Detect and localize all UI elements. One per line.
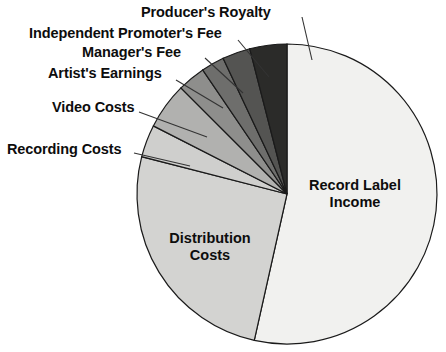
label-independent-promoters-fee: Independent Promoter's Fee	[29, 26, 222, 41]
label-record-label-income-line1: Record Label	[309, 177, 401, 193]
pie-chart-svg	[0, 0, 446, 352]
label-record-label-income: Record Label Income	[300, 177, 410, 211]
pie-chart: Producer's Royalty Independent Promoter'…	[0, 0, 446, 352]
label-managers-fee: Manager's Fee	[82, 45, 181, 60]
label-artists-earnings: Artist's Earnings	[48, 66, 162, 81]
label-producers-royalty: Producer's Royalty	[141, 5, 271, 20]
label-video-costs: Video Costs	[52, 100, 134, 115]
label-distribution-costs: Distribution Costs	[155, 230, 265, 264]
label-record-label-income-line2: Income	[330, 194, 381, 210]
label-distribution-costs-line2: Costs	[190, 247, 230, 263]
label-distribution-costs-line1: Distribution	[169, 230, 250, 246]
label-recording-costs: Recording Costs	[7, 142, 122, 157]
